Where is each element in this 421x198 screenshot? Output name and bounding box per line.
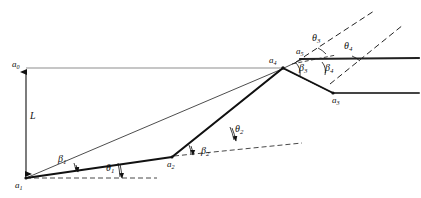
angle-label-theta4: θ4 — [344, 41, 352, 53]
point-label-a2: a2 — [167, 160, 175, 170]
point-label-a0: a0 — [12, 60, 20, 70]
angle-label-theta1: θ1 — [106, 163, 114, 175]
point-label-a1: a1 — [15, 181, 23, 191]
point-label-a5: a5 — [296, 47, 304, 57]
diagram-canvas — [0, 0, 421, 198]
angle-label-beta4: β4 — [325, 63, 333, 75]
angle-label-beta1: β1 — [58, 154, 66, 166]
angle-arc-theta3 — [318, 48, 326, 54]
dashed-ray-theta4 — [330, 25, 403, 84]
dimension-label-L: L — [30, 111, 36, 121]
angle-label-theta3: θ3 — [312, 33, 320, 45]
point-label-a4: a4 — [269, 56, 277, 66]
geometry-diagram: a0 a1 a2 a3 a4 a5 θ1 θ2 θ3 θ4 β1 β2 β3 β… — [0, 0, 421, 198]
angle-label-theta2: θ2 — [235, 124, 243, 136]
dashed-ray-theta3 — [296, 11, 374, 62]
angle-label-beta3: β3 — [299, 63, 307, 75]
vertex-markers — [24, 66, 334, 179]
angle-arc-beta2 — [189, 145, 193, 155]
point-label-a3: a3 — [332, 96, 340, 106]
angle-label-beta2: β2 — [201, 146, 209, 158]
